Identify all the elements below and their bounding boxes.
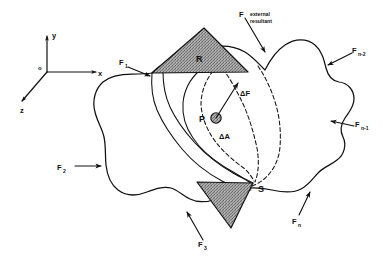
external-resultant-symbol: F bbox=[239, 10, 244, 19]
external-resultant-caption-line2: resultant bbox=[250, 18, 272, 24]
force-2-subscript: 2 bbox=[63, 168, 66, 174]
lower-cut-section-S bbox=[197, 182, 253, 228]
stress-at-a-point-diagram: y x z o bbox=[0, 0, 383, 256]
force-1-subscript: 1 bbox=[125, 63, 128, 69]
force-n-minus-2-arrow bbox=[328, 53, 352, 65]
lower-section-label-S: S bbox=[258, 184, 264, 194]
force-3-subscript: 3 bbox=[204, 245, 207, 251]
z-axis-label: z bbox=[20, 106, 24, 115]
force-3-arrow bbox=[187, 212, 203, 240]
force-1-label: F bbox=[119, 58, 124, 67]
external-resultant-group: F external resultant bbox=[239, 10, 272, 52]
external-force-n-group: F n bbox=[292, 192, 310, 228]
y-axis-label: y bbox=[52, 31, 57, 40]
x-axis-label: x bbox=[98, 69, 103, 78]
coordinate-axes: y x z o bbox=[20, 31, 103, 115]
external-resultant-caption-line1: external bbox=[250, 11, 270, 17]
origin-label: o bbox=[38, 65, 42, 71]
force-3-label: F bbox=[198, 240, 203, 249]
figure-root: y x z o bbox=[0, 0, 383, 256]
point-label-P: P bbox=[199, 114, 205, 124]
external-force-3-group: F 3 bbox=[187, 212, 207, 251]
force-2-label: F bbox=[57, 163, 62, 172]
force-n-minus-2-subscript: n-2 bbox=[358, 51, 366, 57]
force-n-minus-2-label: F bbox=[352, 46, 357, 55]
upper-section-label-R: R bbox=[196, 54, 203, 64]
force-n-subscript: n bbox=[298, 222, 301, 228]
force-n-label: F bbox=[292, 217, 297, 226]
delta-F-label: ΔF bbox=[240, 89, 250, 98]
force-n-arrow bbox=[299, 192, 310, 215]
external-force-2-group: F 2 bbox=[57, 163, 101, 174]
force-n-minus-1-subscript: n-1 bbox=[361, 125, 369, 131]
delta-A-label: ΔA bbox=[219, 132, 230, 141]
force-n-minus-1-label: F bbox=[355, 120, 360, 129]
external-force-n-minus-2-group: F n-2 bbox=[328, 46, 366, 65]
z-axis-line bbox=[22, 72, 47, 101]
